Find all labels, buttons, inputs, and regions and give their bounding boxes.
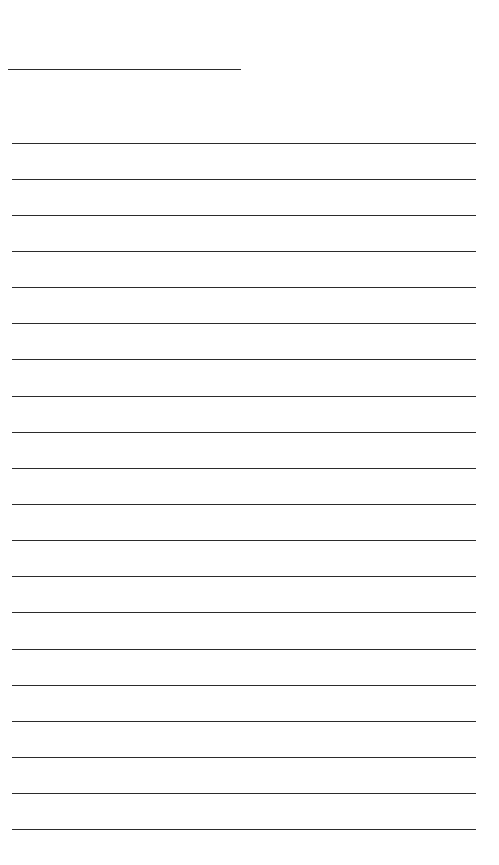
ruled-line — [12, 829, 476, 830]
ruled-line — [12, 504, 476, 505]
ruled-line — [12, 685, 476, 686]
ruled-line — [12, 468, 476, 469]
ruled-line — [12, 540, 476, 541]
ruled-line — [12, 432, 476, 433]
ruled-line — [12, 359, 476, 360]
ruled-line — [12, 287, 476, 288]
ruled-line — [12, 793, 476, 794]
ruled-line — [12, 143, 476, 144]
ruled-line — [12, 323, 476, 324]
ruled-line — [12, 179, 476, 180]
ruled-line — [12, 576, 476, 577]
ruled-line — [12, 612, 476, 613]
ruled-line — [12, 757, 476, 758]
ruled-line — [12, 251, 476, 252]
ruled-line — [12, 215, 476, 216]
ruled-line — [12, 721, 476, 722]
ruled-line — [12, 396, 476, 397]
title-underline — [8, 69, 241, 70]
ruled-line — [12, 649, 476, 650]
